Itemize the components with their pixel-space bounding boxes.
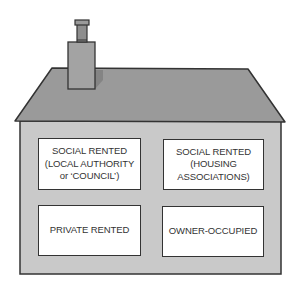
box-label: SOCIAL RENTED (HOUSING ASSOCIATIONS) [176,146,251,184]
box-private-rented: PRIVATE RENTED [38,205,141,256]
box-label: PRIVATE RENTED [50,224,130,237]
chimney-pot [77,24,87,42]
box-social-rented-housing-associations: SOCIAL RENTED (HOUSING ASSOCIATIONS) [163,139,264,190]
box-label: SOCIAL RENTED (LOCAL AUTHORITY or ‘COUNC… [45,145,134,183]
box-social-rented-council: SOCIAL RENTED (LOCAL AUTHORITY or ‘COUNC… [38,138,141,190]
box-owner-occupied: OWNER-OCCUPIED [162,206,264,257]
house-roof [15,68,285,122]
chimney-stack [68,42,95,89]
box-label: OWNER-OCCUPIED [169,225,257,238]
chimney-pot-rim [75,20,89,25]
